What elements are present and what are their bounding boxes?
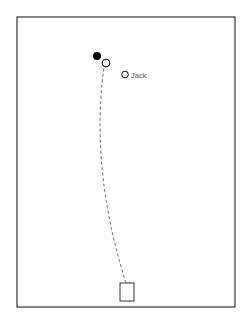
mat — [120, 283, 134, 301]
jack-label: Jack — [131, 71, 147, 80]
ball-filled-icon — [93, 52, 101, 60]
ball-open-icon — [102, 59, 110, 67]
trajectory-dashed-path — [100, 67, 126, 283]
jack-icon — [122, 71, 129, 78]
frame — [17, 17, 235, 307]
bowls-diagram: Jack — [0, 0, 246, 321]
